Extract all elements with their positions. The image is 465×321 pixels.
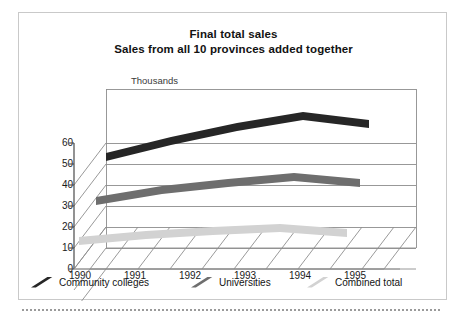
- chart-legend: Community colleges Universities Combined…: [19, 271, 448, 293]
- depth-line-40: [74, 185, 106, 227]
- legend-label-universities: Universities: [219, 277, 271, 288]
- chart-plot-area: [19, 13, 448, 301]
- legend-item-combined-total: Combined total: [307, 271, 402, 293]
- chart-card: Final total sales Sales from all 10 prov…: [18, 12, 447, 300]
- legend-item-community-colleges: Community colleges: [31, 271, 149, 293]
- legend-item-universities: Universities: [191, 271, 271, 293]
- page-divider-dotted: [22, 309, 442, 311]
- series-ribbon-universities: [96, 173, 360, 205]
- legend-swatch-combined-total: [307, 277, 329, 288]
- floor-depth-0: [74, 227, 106, 269]
- depth-line-60: [74, 143, 106, 185]
- chart-page: Final total sales Sales from all 10 prov…: [0, 0, 465, 321]
- legend-label-combined-total: Combined total: [335, 277, 402, 288]
- legend-swatch-community-colleges: [31, 277, 53, 288]
- legend-swatch-universities: [191, 277, 213, 288]
- series-ribbon-community-colleges: [106, 112, 369, 161]
- legend-label-community-colleges: Community colleges: [59, 277, 149, 288]
